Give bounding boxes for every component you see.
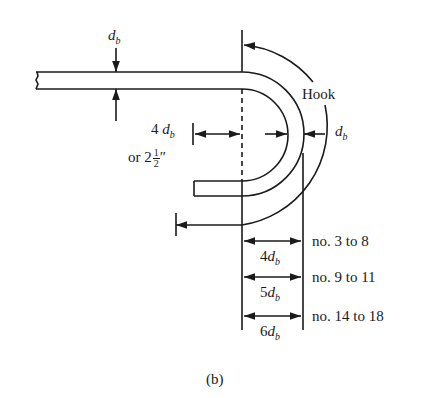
bar-size-range-1: no. 3 to 8 — [312, 234, 369, 249]
panel-label: (b) — [206, 372, 224, 387]
hook-diagram — [0, 0, 435, 398]
bar-break-mark — [36, 72, 38, 89]
bar-diameter-label: db — [108, 28, 121, 43]
bend-diameter-label-3: 6db — [260, 324, 280, 339]
bend-diameter-label-1: 4db — [260, 249, 280, 264]
hook-length-arc-lower — [242, 105, 327, 225]
bend-thickness-label: db — [335, 124, 348, 139]
hook-length-arc — [244, 45, 313, 82]
bar-size-range-2: no. 9 to 11 — [312, 270, 376, 285]
hook-inner-arc — [242, 89, 288, 181]
hook-label: Hook — [302, 87, 335, 102]
bar-size-range-3: no. 14 to 18 — [312, 309, 384, 324]
extension-alt-label: or 212″ — [128, 148, 166, 169]
bend-diameter-label-2: 5db — [260, 285, 280, 300]
extension-length-label: 4 db — [151, 122, 175, 137]
